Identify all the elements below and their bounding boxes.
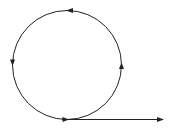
arrow-down-icon	[10, 60, 15, 67]
loop-circle	[13, 11, 122, 120]
arrow-left-icon	[66, 8, 73, 13]
exit-arrowhead-icon	[157, 117, 164, 122]
arrow-up-icon	[119, 63, 124, 70]
loop-diagram	[0, 0, 170, 129]
